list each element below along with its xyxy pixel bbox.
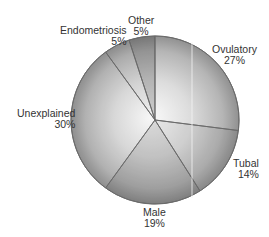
label-unexplained-pct: 30% (17, 119, 75, 130)
label-ovulatory-pct: 27% (212, 55, 257, 66)
label-unexplained: Unexplained 30% (17, 108, 75, 130)
label-male-pct: 19% (143, 218, 166, 229)
label-tubal-pct: 14% (233, 169, 259, 180)
label-endometriosis: Endometriosis 5% (60, 25, 127, 47)
label-ovulatory: Ovulatory 27% (212, 44, 257, 66)
label-endometriosis-pct: 5% (60, 36, 127, 47)
label-tubal: Tubal 14% (233, 158, 259, 180)
label-male: Male 19% (143, 207, 166, 229)
label-other: Other 5% (128, 15, 154, 37)
label-other-pct: 5% (128, 26, 154, 37)
